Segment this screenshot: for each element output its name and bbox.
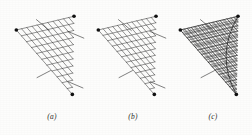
envelope-tangent-line: [209, 23, 237, 55]
panel-caption-c: (c): [193, 112, 233, 121]
envelope-tangent-line: [194, 27, 237, 77]
mesh-line-family-b: [122, 49, 156, 57]
mesh-line-family-b: [98, 16, 156, 30]
right-upper-overhang: [150, 31, 166, 38]
bottom-left-overhang: [119, 71, 132, 78]
mesh-line-family-b: [145, 81, 155, 83]
mesh-line-family-b: [140, 75, 154, 78]
bottom-right-vertex: [71, 93, 75, 97]
bottom-right-vertex: [235, 93, 239, 97]
panel-a-mesh: [16, 16, 74, 94]
top-left-overhang: [36, 20, 49, 31]
mesh-line-family-b: [150, 88, 155, 89]
mesh-line-family-a: [151, 17, 156, 22]
mesh-line-family-b: [67, 87, 72, 88]
left-vertex: [97, 28, 101, 32]
panel-b-mesh: [98, 16, 156, 94]
envelope-tangent-line: [229, 18, 238, 28]
top-right-vertex: [154, 14, 158, 18]
left-vertex: [15, 28, 19, 32]
bottom-right-vertex: [153, 93, 157, 97]
mesh-line-family-b: [47, 59, 73, 65]
mesh-line-family-a: [69, 18, 74, 24]
panel-a: [4, 2, 88, 114]
envelope-tangent-line: [216, 22, 238, 47]
top-right-vertex: [236, 14, 240, 18]
right-upper-overhang: [68, 31, 84, 38]
panel-caption-b: (b): [113, 112, 153, 121]
mesh-line-family-b: [21, 23, 73, 35]
mesh-line-family-a: [113, 27, 155, 75]
bottom-left-overhang: [37, 71, 50, 78]
bottom-right-overhang: [150, 82, 165, 88]
panel-c: [168, 2, 252, 114]
mesh-line-family-a: [48, 23, 73, 52]
figure-container: (a) (b) (c): [0, 0, 252, 135]
mesh-line-family-b: [136, 68, 155, 73]
panel-b: [86, 2, 170, 114]
mesh-line-family-b: [37, 45, 74, 54]
mesh-line-family-b: [42, 52, 73, 59]
panel-caption-a: (a): [32, 112, 72, 121]
mesh-line-family-b: [108, 29, 156, 40]
mesh-line-family-a: [132, 22, 155, 49]
mesh-line-family-b: [57, 73, 73, 77]
mesh-line-family-b: [126, 55, 155, 62]
mesh-line-family-b: [52, 66, 73, 71]
envelope-tangent-line: [200, 25, 237, 67]
left-vertex: [179, 28, 183, 32]
mesh-line-family-b: [62, 80, 72, 82]
top-right-vertex: [72, 14, 76, 18]
mesh-line-family-a: [142, 20, 156, 36]
mesh-line-family-a: [27, 28, 73, 81]
mesh-line-family-a: [58, 20, 73, 38]
bottom-left-overhang: [201, 71, 214, 78]
envelope-tangent-line: [191, 31, 238, 42]
